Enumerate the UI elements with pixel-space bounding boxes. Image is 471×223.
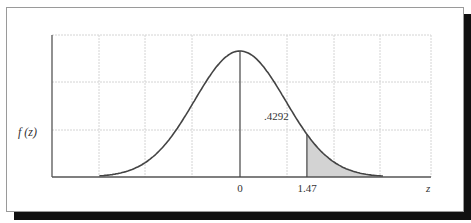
y-axis-label: f (z) bbox=[18, 125, 37, 139]
tick-label-zero: 0 bbox=[237, 182, 243, 194]
tick-label-z: 1.47 bbox=[297, 182, 317, 194]
shaded-tail-area bbox=[307, 134, 383, 177]
normal-density-curve bbox=[99, 51, 383, 176]
normal-curve-chart: f (z) z 0 1.47 .4292 bbox=[0, 0, 471, 223]
x-axis-label: z bbox=[425, 182, 431, 194]
grid-lines bbox=[52, 35, 431, 177]
area-annotation: .4292 bbox=[264, 110, 289, 122]
